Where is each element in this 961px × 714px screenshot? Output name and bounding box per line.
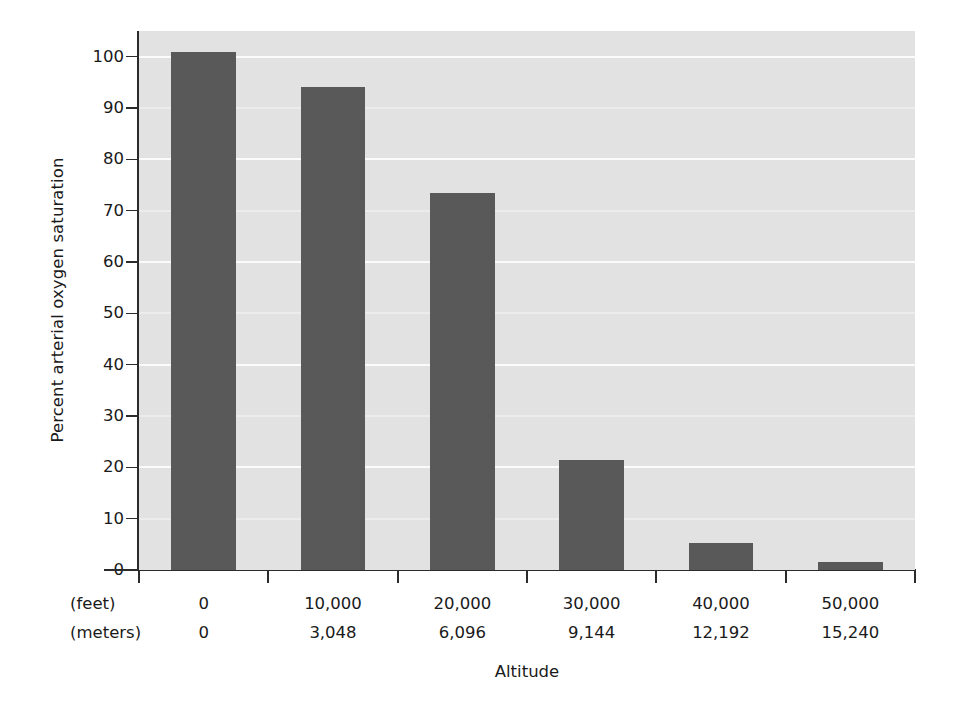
x-axis-tick-mark	[655, 570, 657, 583]
gridline	[139, 466, 915, 468]
gridline	[139, 364, 915, 366]
x-axis-tick-mark	[914, 570, 916, 583]
bar	[301, 87, 366, 570]
y-axis-tick-mark	[126, 159, 139, 161]
bar	[171, 52, 236, 570]
y-axis-tick-label: 90	[62, 100, 124, 117]
y-axis-tick-label: 20	[62, 459, 124, 476]
x-axis-tick-label: 50,000	[780, 594, 920, 613]
x-axis-tick-label: 15,240	[780, 623, 920, 642]
y-axis-tick-mark	[126, 467, 139, 469]
x-axis-tick-label: 20,000	[392, 594, 532, 613]
x-axis-title: Altitude	[139, 662, 915, 681]
bar	[689, 543, 754, 570]
bar	[559, 460, 624, 570]
x-axis-tick-label: 9,144	[522, 623, 662, 642]
x-axis-tick-label: 0	[134, 623, 274, 642]
gridline	[139, 518, 915, 520]
bar	[818, 562, 883, 570]
gridline	[139, 415, 915, 417]
gridline	[139, 158, 915, 160]
y-axis-tick-label: 30	[62, 408, 124, 425]
gridline	[139, 261, 915, 263]
y-axis-tick-mark	[126, 518, 139, 520]
x-axis-tick-label: 6,096	[392, 623, 532, 642]
y-axis-tick-mark	[126, 261, 139, 263]
y-axis-tick-label: 50	[62, 305, 124, 322]
y-axis-tick-label-group: 0102030405060708090100	[62, 31, 124, 571]
x-axis-tick-label: 40,000	[651, 594, 791, 613]
x-axis-tick-mark	[526, 570, 528, 583]
x-axis-tick-mark	[785, 570, 787, 583]
y-axis-tick-label: 70	[62, 202, 124, 219]
x-axis-tick-mark	[138, 570, 140, 583]
y-axis-tick-mark	[126, 415, 139, 417]
y-axis-tick-mark	[126, 313, 139, 315]
x-axis-tick-label: 30,000	[522, 594, 662, 613]
y-axis-tick-mark	[126, 107, 139, 109]
x-axis-tick-label: 0	[134, 594, 274, 613]
bar	[430, 193, 495, 570]
y-axis-tick-mark	[126, 364, 139, 366]
y-axis-tick-mark	[126, 56, 139, 58]
gridline	[139, 56, 915, 58]
plot-area	[139, 31, 915, 570]
x-axis-tick-label: 10,000	[263, 594, 403, 613]
y-axis-tick-label: 100	[62, 48, 124, 65]
x-axis-tick-label: 12,192	[651, 623, 791, 642]
y-axis-tick-label: 10	[62, 510, 124, 527]
gridline	[139, 210, 915, 212]
y-axis-tick-label: 80	[62, 151, 124, 168]
y-axis-tick-mark	[126, 210, 139, 212]
x-axis-tick-label: 3,048	[263, 623, 403, 642]
x-axis-tick-mark	[397, 570, 399, 583]
y-axis-tick-mark	[126, 569, 139, 571]
gridline	[139, 312, 915, 314]
y-axis-tick-label: 40	[62, 356, 124, 373]
oxygen-saturation-altitude-bar-chart: Percent arterial oxygen saturation 01020…	[0, 0, 961, 714]
x-axis-tick-mark	[267, 570, 269, 583]
y-axis-tick-label: 60	[62, 254, 124, 271]
gridline	[139, 107, 915, 109]
